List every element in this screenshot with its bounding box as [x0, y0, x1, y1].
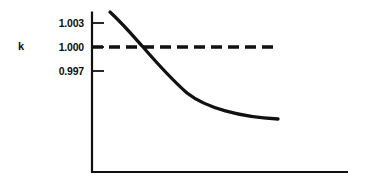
y-tick-label-1000: 1.000 — [36, 41, 84, 53]
y-tick-label-1003: 1.003 — [36, 17, 84, 29]
data-curve — [110, 12, 278, 119]
y-tick-label-0997: 0.997 — [36, 65, 84, 77]
chart-figure: k 1.003 1.000 0.997 — [0, 0, 365, 184]
y-axis-label: k — [10, 40, 32, 52]
